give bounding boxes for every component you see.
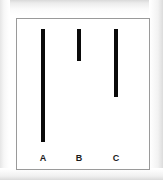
bar-label-a: A	[40, 153, 47, 163]
figure-screenshot: A B C	[0, 0, 163, 180]
bar-label-b: B	[76, 153, 83, 163]
plot-area: A B C	[17, 19, 149, 169]
page-edge-shading-left	[0, 0, 10, 180]
bar-b	[77, 29, 81, 61]
page-edge-shading-right	[149, 0, 163, 180]
bar-a	[41, 29, 45, 142]
figure-frame: A B C	[16, 18, 150, 170]
bar-c	[114, 29, 118, 97]
bar-label-c: C	[113, 153, 120, 163]
